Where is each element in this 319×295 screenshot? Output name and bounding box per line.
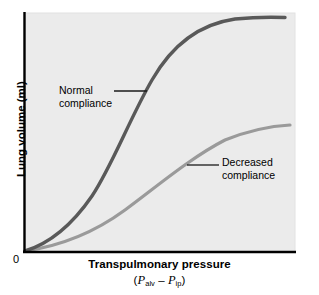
plot-area-background <box>24 13 295 252</box>
compliance-curve-figure: 0 Lung volume (ml) Transpulmonary pressu… <box>0 0 319 295</box>
chart-canvas <box>0 0 319 295</box>
x-axis-title: Transpulmonary pressure <box>0 258 319 270</box>
callout-decreased-compliance-line2: compliance <box>222 169 275 182</box>
callout-decreased-compliance: Decreased compliance <box>222 156 275 181</box>
y-axis-title: Lung volume (ml) <box>15 81 27 177</box>
x-axis-subtitle-close: ) <box>182 274 186 286</box>
x-axis-subtitle-ip-sub: ip <box>176 279 182 288</box>
x-axis-subtitle: (Palv – Pip) <box>0 273 319 288</box>
x-axis-subtitle-p-ip: P <box>168 273 176 287</box>
callout-normal-compliance-line1: Normal <box>59 84 112 97</box>
x-axis-subtitle-minus: – <box>155 274 168 286</box>
callout-normal-compliance-line2: compliance <box>59 97 112 110</box>
callout-normal-compliance: Normal compliance <box>59 84 112 109</box>
callout-decreased-compliance-line1: Decreased <box>222 156 275 169</box>
x-axis-subtitle-alv-sub: alv <box>145 279 155 288</box>
